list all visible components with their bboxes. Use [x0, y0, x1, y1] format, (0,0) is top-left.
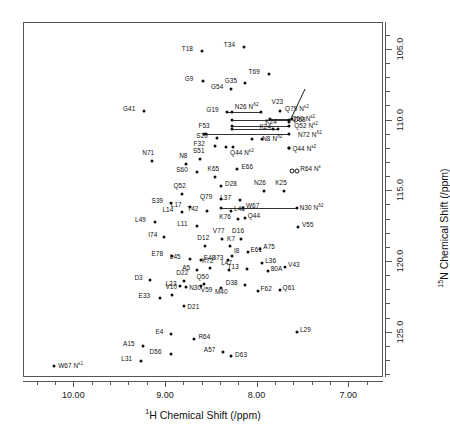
- peak-marker: [256, 290, 259, 293]
- peak-marker: [246, 250, 249, 253]
- peak-marker: [204, 244, 207, 247]
- peak-label: E33: [139, 293, 151, 299]
- y-axis-title-superscript: 15: [437, 279, 444, 287]
- peak-marker: [239, 199, 242, 202]
- peak-label: K24: [259, 124, 271, 130]
- peak-marker: [196, 224, 199, 227]
- peak-label: Q61: [283, 285, 295, 291]
- y-tick-major: [386, 190, 392, 191]
- x-tick-minor: [293, 381, 294, 385]
- y-tick-minor: [386, 247, 390, 248]
- peak-label: D63: [235, 352, 247, 358]
- peak-marker: [243, 216, 246, 219]
- y-tick-major: [386, 332, 392, 333]
- y-tick-minor: [386, 176, 390, 177]
- y-tick-label: 115.0: [395, 179, 405, 201]
- peak-marker: [140, 359, 143, 362]
- peak-marker: [181, 210, 184, 213]
- y-tick-label: 120.0: [395, 250, 405, 273]
- peak-marker: [278, 289, 281, 292]
- peak-label: 80A: [271, 266, 283, 272]
- peak-label: D12: [197, 235, 209, 241]
- peak-marker: [208, 267, 211, 270]
- peak-marker: [183, 304, 186, 307]
- y-tick-minor: [386, 303, 390, 304]
- peak-marker: [219, 206, 222, 209]
- x-tick-minor: [312, 381, 313, 385]
- peak-label: V55: [302, 222, 314, 228]
- peak-marker: [260, 110, 263, 113]
- peak-marker: [185, 286, 188, 289]
- peak-label: N26: [254, 180, 266, 186]
- y-tick-minor: [386, 219, 390, 220]
- x-tick-label: 9.00: [156, 390, 174, 400]
- peak-marker: [163, 236, 166, 239]
- peak-marker: [226, 110, 229, 113]
- plot-frame: T18T34T69G9G35G54G41G19V23D68S20F53K24F3…: [23, 22, 383, 377]
- peak-label: W67: [246, 203, 259, 209]
- peak-marker: [170, 332, 173, 335]
- peak-label: L29: [300, 327, 311, 333]
- y-axis-line: [385, 22, 386, 377]
- peak-label: G41: [123, 106, 135, 112]
- peak-marker: [219, 184, 222, 187]
- peak-label: R64: [198, 334, 210, 340]
- y-tick-minor: [386, 148, 390, 149]
- peak-label: K72: [202, 258, 214, 264]
- peak-marker: [230, 110, 233, 113]
- peak-label: S60: [176, 167, 188, 173]
- peak-marker: [231, 145, 234, 148]
- peak-marker: [200, 49, 203, 52]
- peak-marker: [287, 147, 290, 150]
- peak-marker: [183, 280, 186, 283]
- peak-marker: [263, 190, 266, 193]
- peak-marker: [149, 278, 152, 281]
- x-tick-major: [73, 381, 74, 387]
- peak-label: S39: [152, 198, 164, 204]
- peak-marker: [294, 169, 299, 174]
- peak-label: T34: [224, 42, 235, 48]
- peak-label: K76: [219, 214, 231, 220]
- peak-label: V10: [165, 284, 177, 290]
- y-axis-title: 15N Chemical Shift (/ppm): [437, 50, 450, 405]
- peak-label: K65: [208, 166, 220, 172]
- peak-marker: [276, 128, 279, 131]
- y-tick-minor: [386, 275, 390, 276]
- x-tick-minor: [183, 381, 184, 385]
- y-tick-minor: [386, 318, 390, 319]
- y-tick-minor: [386, 289, 390, 290]
- peak-label: Q52: [174, 183, 186, 189]
- peak-label: A75: [263, 244, 275, 250]
- y-tick-minor: [386, 360, 390, 361]
- x-tick-major: [165, 381, 166, 387]
- peak-label: M40: [215, 289, 228, 295]
- peak-marker: [142, 345, 145, 348]
- peak-marker: [287, 118, 290, 121]
- peak-marker: [230, 118, 233, 121]
- peak-label: D16: [232, 228, 244, 234]
- peak-label: D56: [150, 349, 162, 355]
- peak-marker: [180, 192, 183, 195]
- peak-label: G54: [211, 84, 223, 90]
- y-tick-minor: [386, 204, 390, 205]
- x-axis-title-text: H Chemical Shift (/ppm): [149, 409, 260, 421]
- peak-label: L37: [220, 195, 231, 201]
- peak-label: V23: [272, 99, 284, 105]
- peak-marker: [278, 110, 281, 113]
- peak-label: Q79 Nε2: [285, 105, 309, 113]
- peak-label: W67 Nε1: [58, 362, 83, 370]
- peak-label: G19: [206, 107, 218, 113]
- peak-marker: [201, 80, 204, 83]
- peak-marker: [216, 136, 219, 139]
- peak-label: T18: [182, 46, 193, 52]
- peak-marker: [213, 176, 216, 179]
- peak-label: K25: [275, 180, 287, 186]
- peak-label: A15: [123, 341, 135, 347]
- peak-marker: [236, 167, 239, 170]
- y-tick-minor: [386, 63, 390, 64]
- x-axis-title: 1H Chemical Shift (/ppm): [0, 408, 406, 421]
- peak-marker: [213, 145, 216, 148]
- x-tick-minor: [202, 381, 203, 385]
- peak-label: Q44 Nε2: [292, 145, 316, 153]
